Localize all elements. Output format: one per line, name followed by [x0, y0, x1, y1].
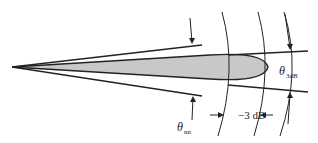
3db-line-upper	[228, 51, 308, 55]
beam-diagram: −3 dB θ 3dB θ nn	[0, 0, 318, 143]
arrowhead-nn-bottom	[190, 96, 196, 102]
theta-nn-symbol: θ	[177, 120, 183, 134]
arrowhead-3db-bottom	[287, 92, 293, 98]
theta-nn-subscript: nn	[184, 128, 192, 136]
3db-line-lower	[228, 85, 308, 92]
theta-3db-subscript: 3dB	[286, 72, 298, 80]
minus-3db-label: −3 dB	[238, 109, 265, 121]
arrowhead-3db-top	[287, 44, 293, 50]
arrowhead-nn-top	[189, 38, 195, 44]
theta-3db-symbol: θ	[279, 64, 285, 78]
